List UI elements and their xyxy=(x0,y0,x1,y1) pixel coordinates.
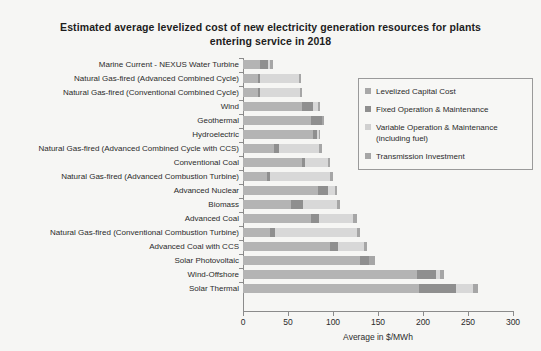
legend-item[interactable]: Transmission Investment xyxy=(365,151,525,162)
bar-segment-cap xyxy=(243,88,258,97)
category-label: Marine Current - NEXUS Water Turbine xyxy=(99,58,239,72)
bar-segment-vom xyxy=(305,158,328,167)
stacked-bar[interactable] xyxy=(243,270,444,279)
y-axis-tick xyxy=(239,198,243,199)
bar-segment-tra xyxy=(440,270,444,279)
category-label: Wind-Offshore xyxy=(188,268,239,282)
bar-segment-vom xyxy=(260,88,300,97)
category-label: Natural Gas-fired (Advanced Combined Cyc… xyxy=(38,142,239,156)
stacked-bar[interactable] xyxy=(243,144,322,153)
x-axis-tick xyxy=(243,311,244,316)
bar-segment-vom xyxy=(270,172,330,181)
bar-row: Advanced Nuclear xyxy=(0,184,541,198)
stacked-bar[interactable] xyxy=(243,214,357,223)
bar-segment-cap xyxy=(243,116,311,125)
bar-segment-tra xyxy=(473,284,478,293)
category-label: Advanced Coal with CCS xyxy=(149,240,239,254)
category-label: Geothermal xyxy=(197,114,239,128)
y-axis-tick xyxy=(239,142,243,143)
stacked-bar[interactable] xyxy=(243,228,360,237)
legend-swatch-icon xyxy=(365,88,371,94)
bar-segment-fom xyxy=(330,242,338,251)
bar-segment-tra xyxy=(300,88,303,97)
x-axis-tick-label: 300 xyxy=(506,317,520,327)
y-axis-tick xyxy=(239,282,243,283)
y-axis-tick xyxy=(239,114,243,115)
x-axis-label: Average in $/MWh xyxy=(243,332,513,342)
category-label: Natural Gas-fired (Advanced Combustion T… xyxy=(61,170,239,184)
bar-segment-vom xyxy=(303,200,337,209)
stacked-bar[interactable] xyxy=(243,172,333,181)
x-axis-tick xyxy=(288,311,289,316)
category-label: Natural Gas-fired (Advanced Combined Cyc… xyxy=(74,72,239,86)
bar-segment-tra xyxy=(335,186,337,195)
y-axis-tick xyxy=(239,254,243,255)
x-axis-tick-label: 100 xyxy=(326,317,340,327)
stacked-bar[interactable] xyxy=(243,130,320,139)
bar-row: Advanced Coal with CCS xyxy=(0,240,541,254)
stacked-bar[interactable] xyxy=(243,60,273,69)
y-axis-tick xyxy=(239,58,243,59)
bar-segment-tra xyxy=(330,172,333,181)
bar-segment-cap xyxy=(243,200,291,209)
bar-segment-vom xyxy=(456,284,473,293)
x-axis-tick xyxy=(423,311,424,316)
bar-segment-cap xyxy=(243,102,302,111)
bar-segment-fom xyxy=(311,214,319,223)
stacked-bar[interactable] xyxy=(243,74,301,83)
y-axis-tick xyxy=(239,72,243,73)
stacked-bar[interactable] xyxy=(243,88,302,97)
bar-segment-cap xyxy=(243,228,270,237)
legend-label: Fixed Operation & Maintenance xyxy=(376,104,489,115)
legend-label: Levelized Capital Cost xyxy=(376,86,456,97)
bar-row: Solar Thermal xyxy=(0,282,541,296)
legend-swatch-icon xyxy=(365,106,371,112)
stacked-bar[interactable] xyxy=(243,256,375,265)
bar-segment-tra xyxy=(299,74,302,83)
y-axis-tick xyxy=(239,212,243,213)
bar-segment-vom xyxy=(260,74,299,83)
bar-segment-cap xyxy=(243,214,311,223)
bar-segment-vom xyxy=(338,242,364,251)
chart-container: Estimated average levelized cost of new … xyxy=(0,0,541,351)
bar-row: Wind-Offshore xyxy=(0,268,541,282)
stacked-bar[interactable] xyxy=(243,186,337,195)
bar-segment-vom xyxy=(275,228,357,237)
x-axis-tick xyxy=(513,311,514,316)
category-label: Advanced Nuclear xyxy=(174,184,239,198)
x-axis-tick-label: 0 xyxy=(241,317,246,327)
stacked-bar[interactable] xyxy=(243,284,478,293)
legend-item[interactable]: Fixed Operation & Maintenance xyxy=(365,104,525,115)
stacked-bar[interactable] xyxy=(243,116,324,125)
stacked-bar[interactable] xyxy=(243,242,367,251)
bar-segment-cap xyxy=(243,144,274,153)
y-axis-tick xyxy=(239,184,243,185)
bar-segment-fom xyxy=(417,270,437,279)
y-axis-tick xyxy=(239,268,243,269)
bar-segment-tra xyxy=(322,116,324,125)
bar-row: Natural Gas-fired (Conventional Combusti… xyxy=(0,226,541,240)
bar-segment-tra xyxy=(357,228,360,237)
plot-area: Marine Current - NEXUS Water TurbineNatu… xyxy=(0,0,541,351)
legend-item[interactable]: Variable Operation & Maintenance (includ… xyxy=(365,122,525,144)
bar-segment-tra xyxy=(364,242,367,251)
x-axis-tick-label: 50 xyxy=(283,317,292,327)
bar-row: Advanced Coal xyxy=(0,212,541,226)
legend-item[interactable]: Levelized Capital Cost xyxy=(365,86,525,97)
x-axis-tick-label: 200 xyxy=(416,317,430,327)
bar-segment-cap xyxy=(243,172,267,181)
category-label: Conventional Coal xyxy=(174,156,239,170)
stacked-bar[interactable] xyxy=(243,102,320,111)
category-label: Natural Gas-fired (Conventional Combusti… xyxy=(50,226,239,240)
bar-segment-fom xyxy=(302,102,314,111)
y-axis-tick xyxy=(239,156,243,157)
stacked-bar[interactable] xyxy=(243,200,340,209)
bar-segment-fom xyxy=(260,60,268,69)
legend-swatch-icon xyxy=(365,124,371,130)
bar-segment-tra xyxy=(369,256,375,265)
category-label: Solar Photovoltaic xyxy=(175,254,239,268)
stacked-bar[interactable] xyxy=(243,158,330,167)
bar-row: Marine Current - NEXUS Water Turbine xyxy=(0,58,541,72)
category-label: Natural Gas-fired (Conventional Combined… xyxy=(63,86,239,100)
bar-segment-fom xyxy=(360,256,369,265)
